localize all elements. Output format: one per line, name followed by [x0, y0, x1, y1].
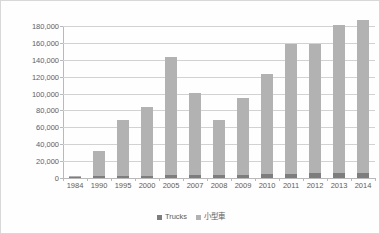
bar-segment-trucks[interactable] — [285, 174, 297, 178]
x-axis-line — [63, 178, 376, 179]
bar-segment-cars[interactable] — [117, 120, 129, 176]
y-axis-tick-label: 0 — [7, 174, 59, 183]
bar-group[interactable] — [237, 26, 249, 178]
bar-group[interactable] — [261, 26, 273, 178]
x-axis-tick-label: 2014 — [348, 181, 378, 190]
y-axis-tick-label: 140,000 — [7, 56, 59, 65]
y-axis-tick-label: 60,000 — [7, 123, 59, 132]
bar-segment-trucks[interactable] — [333, 173, 345, 178]
bar-segment-trucks[interactable] — [117, 176, 129, 178]
chart-container: 180,000160,000140,000120,000100,00080,00… — [0, 0, 380, 234]
legend-label: Trucks — [165, 213, 187, 221]
bar-group[interactable] — [357, 26, 369, 178]
legend-label: 小型車 — [204, 213, 225, 221]
y-axis-tick-label: 120,000 — [7, 73, 59, 82]
bar-segment-trucks[interactable] — [309, 173, 321, 178]
bar-segment-trucks[interactable] — [69, 177, 81, 178]
bar-segment-trucks[interactable] — [93, 176, 105, 178]
x-axis: 1984199019952000200520072008200920102011… — [63, 181, 375, 195]
bar-segment-trucks[interactable] — [357, 173, 369, 178]
bar-group[interactable] — [309, 26, 321, 178]
bar-segment-cars[interactable] — [165, 57, 177, 175]
bar-group[interactable] — [165, 26, 177, 178]
bar-segment-trucks[interactable] — [261, 174, 273, 178]
bar-segment-cars[interactable] — [93, 151, 105, 176]
bar-group[interactable] — [141, 26, 153, 178]
x-axis-tick-mark — [63, 178, 64, 181]
bar-group[interactable] — [117, 26, 129, 178]
bar-group[interactable] — [93, 26, 105, 178]
legend-item[interactable]: Trucks — [157, 213, 187, 221]
bar-segment-cars[interactable] — [189, 93, 201, 176]
y-axis-tick-label: 20,000 — [7, 157, 59, 166]
bar-segment-cars[interactable] — [309, 44, 321, 174]
y-axis-tick-label: 160,000 — [7, 39, 59, 48]
y-axis-tick-label: 40,000 — [7, 140, 59, 149]
y-axis-tick-label: 180,000 — [7, 22, 59, 31]
chart-legend: Trucks小型車 — [1, 209, 380, 225]
bar-group[interactable] — [333, 26, 345, 178]
bar-group[interactable] — [69, 26, 81, 178]
bar-segment-trucks[interactable] — [237, 175, 249, 178]
bar-group[interactable] — [213, 26, 225, 178]
legend-item[interactable]: 小型車 — [196, 213, 225, 221]
y-axis-tick-label: 100,000 — [7, 90, 59, 99]
bar-segment-cars[interactable] — [261, 74, 273, 174]
bar-segment-trucks[interactable] — [213, 175, 225, 178]
bar-segment-cars[interactable] — [213, 120, 225, 176]
legend-swatch-icon — [157, 215, 162, 220]
bar-segment-cars[interactable] — [357, 20, 369, 173]
bar-group[interactable] — [285, 26, 297, 178]
bar-segment-trucks[interactable] — [165, 175, 177, 178]
bar-segment-cars[interactable] — [285, 44, 297, 174]
y-axis-tick-label: 80,000 — [7, 106, 59, 115]
bar-segment-cars[interactable] — [333, 25, 345, 173]
bar-group[interactable] — [189, 26, 201, 178]
plot-area — [63, 26, 375, 178]
x-axis-tick-mark — [375, 178, 376, 181]
legend-swatch-icon — [196, 215, 201, 220]
bar-segment-trucks[interactable] — [189, 175, 201, 178]
bar-segment-cars[interactable] — [141, 107, 153, 176]
bar-segment-trucks[interactable] — [141, 176, 153, 178]
bar-segment-cars[interactable] — [237, 98, 249, 175]
